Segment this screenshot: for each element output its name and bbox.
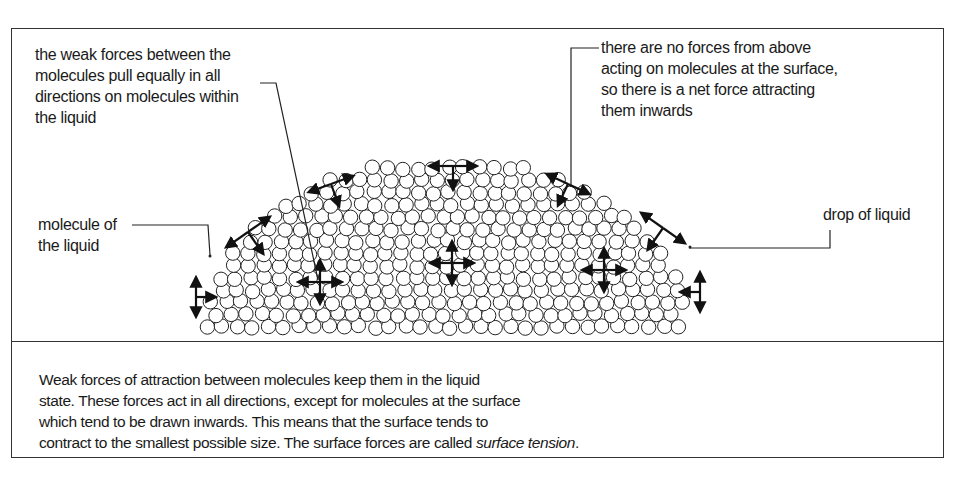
molecule	[279, 199, 293, 213]
molecule	[589, 210, 603, 224]
molecule	[214, 272, 228, 286]
molecule	[470, 246, 484, 260]
molecule	[391, 211, 405, 225]
molecule	[592, 234, 606, 248]
molecule	[499, 260, 513, 274]
molecule	[325, 297, 339, 311]
molecule	[318, 246, 332, 260]
molecule	[653, 246, 667, 260]
molecule	[385, 199, 399, 213]
molecule	[502, 236, 516, 250]
force-arrow	[663, 228, 684, 242]
molecule	[561, 247, 575, 261]
force-arrow	[643, 214, 664, 228]
molecule	[269, 308, 283, 322]
label-line: them inwards	[601, 100, 838, 121]
label-surface-forces: there are no forces from above acting on…	[601, 37, 838, 121]
molecule	[363, 248, 377, 262]
molecule	[457, 272, 471, 286]
molecule	[310, 296, 324, 310]
molecule	[353, 172, 367, 186]
molecule	[292, 196, 306, 210]
molecule	[343, 210, 357, 224]
molecule	[491, 173, 505, 187]
molecule	[412, 186, 426, 200]
molecule	[349, 236, 363, 250]
molecule	[302, 247, 316, 261]
caption-line: Weak forces of attraction between molecu…	[39, 369, 579, 390]
label-line: acting on molecules at the surface,	[601, 58, 838, 79]
molecule	[268, 209, 282, 223]
molecule	[564, 282, 578, 296]
molecule	[411, 234, 425, 248]
caption-period: .	[575, 434, 579, 451]
molecule	[550, 223, 564, 237]
molecule	[671, 320, 685, 334]
molecule	[670, 283, 684, 297]
molecule	[462, 295, 476, 309]
molecule	[476, 173, 490, 187]
molecule	[562, 234, 576, 248]
label-line: directions on molecules within	[35, 86, 239, 107]
molecule	[473, 186, 487, 200]
molecule	[399, 198, 413, 212]
molecule	[341, 296, 355, 310]
molecule	[337, 320, 351, 334]
molecule	[594, 284, 608, 298]
molecule	[487, 160, 501, 174]
molecule	[436, 309, 450, 323]
molecule	[278, 223, 292, 237]
molecule	[226, 246, 240, 260]
surface-tension-term: surface tension	[476, 434, 575, 451]
molecule	[625, 234, 639, 248]
molecule	[547, 272, 561, 286]
molecule	[350, 271, 364, 285]
label-line: molecule of	[38, 214, 117, 235]
molecule	[460, 223, 474, 237]
label-line: the liquid	[38, 235, 117, 256]
molecule	[410, 247, 424, 261]
caption-line-text: contract to the smallest possible size. …	[39, 434, 476, 451]
molecule	[336, 187, 350, 201]
molecule	[669, 270, 683, 284]
molecule	[423, 247, 437, 261]
molecule	[382, 284, 396, 298]
molecule	[286, 309, 300, 323]
molecule	[431, 224, 445, 238]
molecule	[245, 285, 259, 299]
molecule	[509, 296, 523, 310]
molecule	[533, 272, 547, 286]
molecule	[631, 295, 645, 309]
molecule	[457, 185, 471, 199]
molecule	[368, 199, 382, 213]
molecule	[559, 211, 573, 225]
molecule	[518, 321, 532, 335]
molecule	[414, 221, 428, 235]
molecule	[415, 296, 429, 310]
molecule	[380, 260, 394, 274]
molecule	[239, 307, 253, 321]
molecule	[410, 260, 424, 274]
molecule	[484, 246, 498, 260]
molecule	[413, 320, 427, 334]
molecule	[607, 260, 621, 274]
molecule	[505, 199, 519, 213]
molecule	[245, 321, 259, 335]
molecule	[609, 235, 623, 249]
molecule	[310, 223, 324, 237]
molecule	[262, 222, 276, 236]
molecule	[534, 321, 548, 335]
molecule	[412, 162, 426, 176]
molecule	[209, 308, 223, 322]
molecule	[324, 199, 338, 213]
leader-line-molecule	[132, 225, 210, 255]
molecule	[496, 211, 510, 225]
molecule	[516, 161, 530, 175]
molecule	[227, 272, 241, 286]
molecule	[661, 296, 675, 310]
molecule	[293, 223, 307, 237]
label-line: the liquid	[35, 107, 239, 128]
molecule	[302, 309, 316, 323]
molecule	[426, 187, 440, 201]
leader-line-surface-forces	[571, 48, 599, 185]
